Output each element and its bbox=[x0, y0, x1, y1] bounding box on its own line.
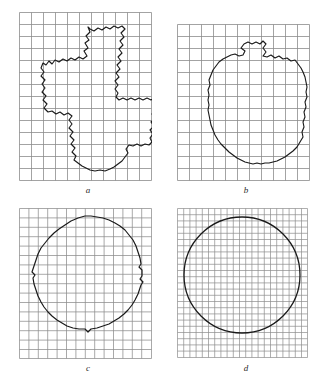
panel-b-grid bbox=[178, 25, 310, 181]
panel-label-a: a bbox=[81, 186, 95, 195]
panel-d-grid bbox=[178, 209, 308, 358]
panel-d-plot bbox=[177, 208, 308, 358]
panel-label-d: d bbox=[239, 364, 253, 373]
panel-b-plot bbox=[177, 24, 310, 181]
panel-a-plot bbox=[19, 12, 152, 181]
fractal-box-counting-figure: a b c d bbox=[0, 0, 331, 382]
panel-a bbox=[19, 12, 152, 181]
panel-label-b: b bbox=[239, 186, 253, 195]
panel-b-curve bbox=[208, 41, 307, 164]
panel-c bbox=[19, 208, 152, 359]
panel-c-grid bbox=[20, 209, 152, 359]
panel-a-grid bbox=[20, 13, 152, 181]
panel-a-curve bbox=[41, 26, 152, 171]
panel-d bbox=[177, 208, 308, 358]
panel-label-c: c bbox=[81, 364, 95, 373]
panel-b bbox=[177, 24, 310, 181]
panel-c-plot bbox=[19, 208, 152, 359]
